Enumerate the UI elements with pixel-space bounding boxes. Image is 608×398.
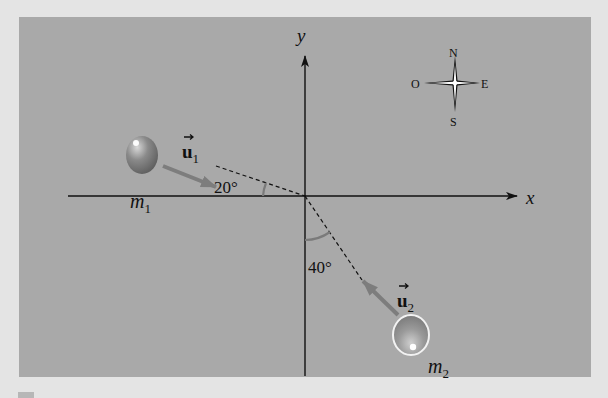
compass-south: S	[450, 115, 457, 129]
mass-1-ball	[126, 136, 158, 174]
velocity-label-u2: u2	[397, 284, 414, 316]
angle-arc-40	[305, 232, 330, 240]
compass-rose-icon	[424, 56, 480, 112]
angle-arc-20	[263, 183, 266, 196]
mass-2-label: m2	[428, 355, 449, 381]
mass-2-ball	[393, 315, 429, 355]
angle-label-20: 20°	[214, 178, 238, 197]
svg-text:u1: u1	[182, 141, 199, 166]
vector-arrow-icon	[184, 135, 193, 140]
caption-fragment	[18, 392, 34, 398]
compass-north: N	[449, 46, 458, 60]
collision-diagram: x y 20° 40° m1 u1 m2 u2 N S E O	[0, 0, 608, 398]
velocity-label-u1: u1	[182, 135, 199, 167]
x-axis-label: x	[525, 187, 535, 208]
vector-arrow-icon	[399, 284, 408, 289]
velocity-arrow-u1	[163, 166, 216, 187]
y-axis-label: y	[295, 25, 306, 46]
angle-label-40: 40°	[308, 258, 332, 277]
compass-west: O	[411, 77, 420, 91]
velocity-arrow-u2	[363, 281, 398, 315]
svg-text:u2: u2	[397, 290, 414, 315]
compass-east: E	[481, 77, 488, 91]
mass-1-label: m1	[130, 190, 151, 216]
